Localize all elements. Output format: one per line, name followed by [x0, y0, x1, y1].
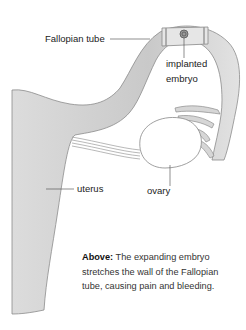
embryo-icon [180, 30, 188, 38]
ovary-shape [140, 117, 202, 168]
caption-bold: Above: [82, 252, 113, 262]
label-ovary: ovary [147, 185, 170, 196]
label-implanted: implanted [166, 58, 207, 69]
label-uterus: uterus [77, 183, 103, 194]
ovarian-ligament [72, 137, 140, 159]
label-embryo: embryo [166, 73, 198, 84]
label-fallopian-tube: Fallopian tube [45, 33, 105, 44]
caption: Above: The expanding embryo stretches th… [82, 250, 232, 294]
